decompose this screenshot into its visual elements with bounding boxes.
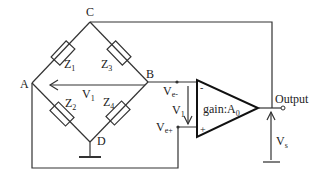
ve-plus-label: Ve+ <box>156 120 173 135</box>
v1-amp-label: V1 <box>172 103 185 119</box>
z4-label: Z4 <box>103 95 114 111</box>
z1-label: Z1 <box>64 57 75 73</box>
opamp-plus-sign: + <box>200 124 206 135</box>
wire-b-d <box>90 82 148 142</box>
wire-c-a <box>32 22 90 83</box>
output-label: Output <box>275 92 309 106</box>
node-a-label: A <box>20 77 29 91</box>
ve-minus-label: Ve- <box>163 84 178 99</box>
wire-c-to-output <box>90 22 272 108</box>
opamp-minus-sign: - <box>200 82 203 93</box>
gain-label: gain:A0 <box>203 102 240 118</box>
vs-label: Vs <box>276 134 288 150</box>
bridge-amplifier-circuit: C A B D Z1 Z3 Z2 Z4 V1 Ve- V1 Ve+ Vs - +… <box>0 0 326 178</box>
vminus-node <box>175 80 178 83</box>
node-d-label: D <box>97 134 106 148</box>
z2-label: Z2 <box>65 96 76 112</box>
node-b-label: B <box>146 67 154 81</box>
output-terminal <box>281 106 285 110</box>
node-c-label: C <box>86 5 94 19</box>
z3-label: Z3 <box>101 57 112 73</box>
v1-bridge-label: V1 <box>82 87 95 103</box>
wire-c-b <box>90 22 148 82</box>
vplus-node <box>176 125 179 128</box>
